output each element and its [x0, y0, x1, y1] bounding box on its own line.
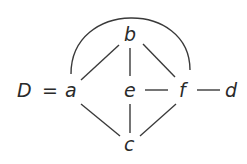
graph-name-label: D	[17, 79, 32, 101]
edge-a-c	[81, 104, 120, 136]
graph-diagram: D = a b e f d c	[0, 0, 247, 164]
node-c: c	[124, 133, 135, 155]
node-f: f	[179, 79, 189, 101]
node-e: e	[124, 79, 136, 101]
equals-sign: =	[42, 79, 58, 101]
edge-f-c	[140, 104, 176, 136]
edge-a-b	[81, 45, 119, 80]
edge-b-f	[143, 44, 175, 77]
node-d: d	[225, 79, 238, 101]
node-b: b	[124, 23, 136, 45]
node-a: a	[65, 79, 77, 101]
